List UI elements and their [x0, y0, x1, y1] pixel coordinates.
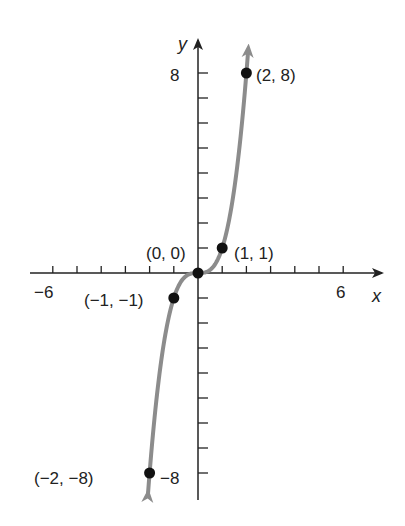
x-min-tick-label: −6	[34, 283, 53, 302]
y-max-tick-label: 8	[170, 66, 179, 85]
data-point	[144, 468, 155, 479]
point-label-2-8: (2, 8)	[256, 66, 296, 85]
data-point	[168, 293, 179, 304]
data-point	[217, 243, 228, 254]
point-label-neg2-neg8: (−2, −8)	[34, 469, 94, 488]
point-label-neg1-neg1: (−1, −1)	[84, 291, 144, 310]
cubic-function-graph: x y −6 6 8 −8 (2, 8) (1, 1) (0, 0) (−1, …	[0, 0, 405, 526]
x-axis-label: x	[371, 286, 382, 306]
point-label-1-1: (1, 1)	[234, 244, 274, 263]
x-max-tick-label: 6	[336, 283, 345, 302]
y-axis-label: y	[176, 34, 188, 54]
data-point	[241, 68, 252, 79]
data-point	[193, 268, 204, 279]
y-min-tick-label: −8	[160, 469, 179, 488]
point-label-0-0: (0, 0)	[146, 244, 186, 263]
